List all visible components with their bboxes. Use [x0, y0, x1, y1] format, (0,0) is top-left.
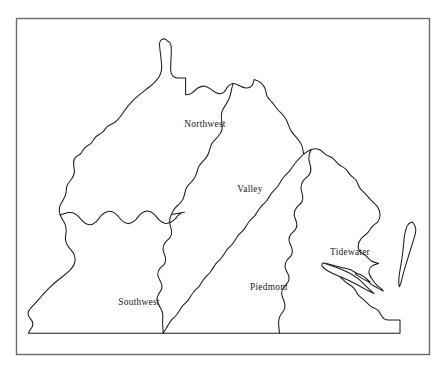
region-label-piedmont: Piedmont: [250, 282, 288, 292]
eastern-shore-peninsula: [399, 222, 416, 287]
region-label-northwest: Northwest: [184, 119, 225, 129]
region-label-tidewater: Tidewater: [330, 247, 371, 257]
map-canvas: Northwest Valley Southwest Piedmont Tide…: [0, 0, 447, 373]
region-label-valley: Valley: [237, 184, 263, 194]
region-label-southwest: Southwest: [118, 297, 159, 307]
mainland-outline: [28, 39, 400, 333]
region-map-figure: Northwest Valley Southwest Piedmont Tide…: [0, 0, 447, 373]
